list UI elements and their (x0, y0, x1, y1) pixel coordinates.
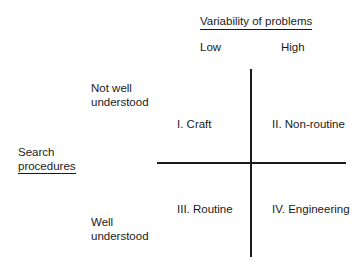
row-bottom-label: Well understood (91, 215, 149, 243)
quadrant-routine: III. Routine (177, 202, 233, 216)
row-axis-title-line1: Search (18, 145, 76, 159)
row-bottom-label-line2: understood (91, 229, 149, 243)
row-top-label-line1: Not well (91, 81, 149, 95)
quadrant-non-routine: II. Non-routine (272, 117, 345, 131)
column-high-label: High (281, 40, 303, 54)
row-axis-title-line2: procedures (18, 160, 76, 174)
column-axis-title: Variability of problems (200, 14, 312, 30)
horizontal-divider (157, 162, 346, 164)
quadrant-engineering: IV. Engineering (272, 202, 350, 216)
row-top-label: Not well understood (91, 81, 149, 109)
row-top-label-line2: understood (91, 95, 149, 109)
row-bottom-label-line1: Well (91, 215, 149, 229)
quadrant-craft: I. Craft (177, 117, 212, 131)
row-axis-title: Search procedures (18, 145, 76, 173)
column-low-label: Low (200, 40, 221, 54)
